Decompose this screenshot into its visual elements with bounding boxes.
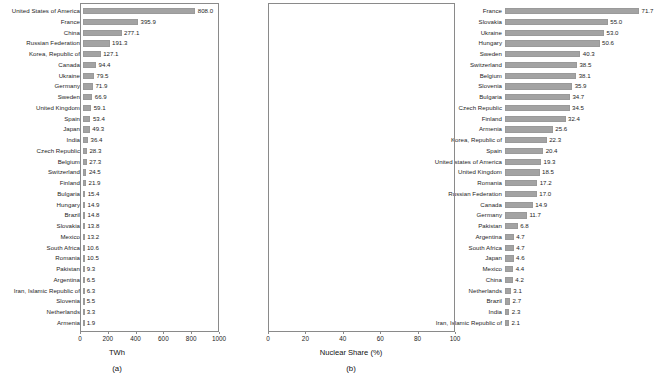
- bar-cell: 3.1: [505, 286, 658, 297]
- bar-row: Switzerland24.5: [0, 167, 234, 178]
- bar-value-label: 2.7: [510, 296, 521, 307]
- bar-row: France71.7: [234, 6, 468, 17]
- bar-cell: 191.3: [83, 38, 222, 49]
- bar-row: Mexico13.2: [0, 232, 234, 243]
- bar-row: Bulgaria34.7: [234, 92, 468, 103]
- bar-cell: 11.7: [505, 210, 658, 221]
- bar-value-label: 35.9: [572, 81, 586, 92]
- bar-row: Japan49.3: [0, 124, 234, 135]
- bar-category-label: Slovenia: [0, 296, 83, 307]
- bar-category-label: Finland: [0, 178, 83, 189]
- bar-row: Switzerland38.5: [234, 60, 468, 71]
- x-axis-tick-label: 0: [266, 335, 270, 342]
- bar-row: Iran, Islamic Republic of6.3: [0, 286, 234, 297]
- bar-category-label: Romania: [234, 178, 505, 189]
- bar-cell: 17.2: [505, 178, 658, 189]
- bar-row: France395.9: [0, 17, 234, 28]
- bar-row: South Africa10.6: [0, 243, 234, 254]
- bar-cell: 4.7: [505, 243, 658, 254]
- bar: [83, 116, 90, 122]
- panel-a-caption: (a): [0, 364, 234, 373]
- bar-value-label: 22.3: [547, 135, 561, 146]
- bar-value-label: 2.3: [509, 307, 520, 318]
- bar-value-label: 40.3: [580, 49, 594, 60]
- bar-cell: 53.4: [83, 114, 222, 125]
- bar-value-label: 66.9: [92, 92, 106, 103]
- bar-category-label: Armenia: [0, 318, 83, 329]
- bar-category-label: Netherlands: [234, 286, 505, 297]
- bar-value-label: 28.3: [87, 146, 101, 157]
- x-axis-tick-label: 1000: [212, 335, 226, 342]
- bar: [505, 105, 570, 111]
- bar: [505, 223, 518, 229]
- bar-value-label: 36.4: [88, 135, 102, 146]
- bar-category-label: Finland: [234, 114, 505, 125]
- bar: [505, 202, 533, 208]
- bar-row: United states of America19.3: [234, 157, 468, 168]
- bar-value-label: 24.5: [86, 167, 100, 178]
- bar-cell: 38.5: [505, 60, 658, 71]
- bar-row: Ukraine53.0: [234, 28, 468, 39]
- bar-category-label: Pakistan: [234, 221, 505, 232]
- panel-a-plot: United States of America808.0France395.9…: [0, 0, 234, 379]
- bar-category-label: Slovakia: [234, 17, 505, 28]
- bar-row: Armenia25.6: [234, 124, 468, 135]
- bar-category-label: Slovakia: [0, 221, 83, 232]
- x-axis-tick: [455, 332, 456, 335]
- bar: [83, 62, 96, 68]
- bar-row: Sweden40.3: [234, 49, 468, 60]
- bar-value-label: 10.5: [84, 253, 98, 264]
- bar-value-label: 4.7: [514, 243, 525, 254]
- bar-value-label: 4.4: [513, 264, 524, 275]
- bar: [83, 105, 91, 111]
- bar-category-label: India: [234, 307, 505, 318]
- bar: [83, 8, 195, 14]
- bar-cell: 34.5: [505, 103, 658, 114]
- bar-cell: 59.1: [83, 103, 222, 114]
- bar-cell: 53.0: [505, 28, 658, 39]
- bar-value-label: 53.4: [90, 114, 104, 125]
- bar-row: Argentina4.7: [234, 232, 468, 243]
- bar-category-label: Spain: [234, 146, 505, 157]
- bar: [83, 51, 101, 57]
- bar: [83, 40, 110, 46]
- bar: [83, 126, 90, 132]
- bar-value-label: 79.5: [94, 71, 108, 82]
- bar-category-label: Brazil: [0, 210, 83, 221]
- bar: [505, 83, 572, 89]
- bar-row: India36.4: [0, 135, 234, 146]
- bar-cell: 4.2: [505, 275, 658, 286]
- bar-category-label: Sweden: [0, 92, 83, 103]
- x-axis-tick-label: 80: [414, 335, 421, 342]
- bar-category-label: Romania: [0, 253, 83, 264]
- bar-category-label: Argentina: [234, 232, 505, 243]
- panel-b-caption: (b): [234, 364, 468, 373]
- x-axis-tick: [136, 332, 137, 335]
- x-axis-tick: [418, 332, 419, 335]
- panel-a-rows: United States of America808.0France395.9…: [0, 6, 234, 329]
- bar-cell: 4.6: [505, 253, 658, 264]
- bar-category-label: Germany: [0, 81, 83, 92]
- x-axis-tick: [380, 332, 381, 335]
- bar-cell: 2.7: [505, 296, 658, 307]
- x-axis-tick: [163, 332, 164, 335]
- bar-cell: 2.3: [505, 307, 658, 318]
- bar-row: South Africa4.7: [234, 243, 468, 254]
- bar-category-label: Iran, Islamic Republic of: [234, 318, 505, 329]
- bar: [505, 191, 537, 197]
- bar-row: Brazil2.7: [234, 296, 468, 307]
- bar-row: Slovenia5.5: [0, 296, 234, 307]
- bar-row: Romania10.5: [0, 253, 234, 264]
- bar-value-label: 15.4: [85, 189, 99, 200]
- bar: [83, 19, 138, 25]
- bar-category-label: Belgium: [0, 157, 83, 168]
- bar-cell: 6.3: [83, 286, 222, 297]
- bar-row: United States of America808.0: [0, 6, 234, 17]
- bar-category-label: France: [234, 6, 505, 17]
- bar-row: Slovenia35.9: [234, 81, 468, 92]
- bar-cell: 808.0: [83, 6, 222, 17]
- bar-value-label: 9.3: [84, 264, 95, 275]
- bar-row: Czech Republic34.5: [234, 103, 468, 114]
- bar-row: Russian Federation191.3: [0, 38, 234, 49]
